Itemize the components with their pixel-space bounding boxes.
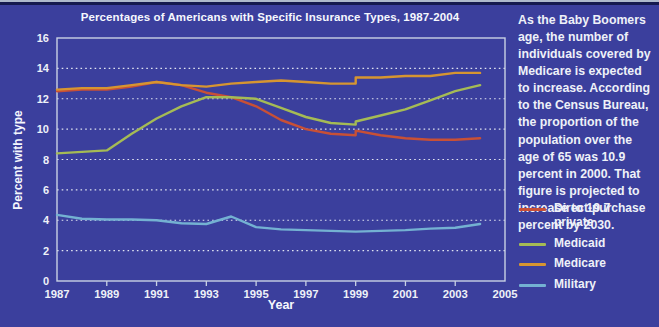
figure-panel: Percentages of Americans with Specific I…: [0, 0, 659, 327]
series-line-medicaid: [57, 85, 480, 153]
y-tick-label-10: 10: [37, 123, 49, 135]
legend-line-swatch: [519, 284, 546, 287]
y-tick-label-12: 12: [37, 93, 49, 105]
x-tick-label-2005: 2005: [492, 288, 517, 300]
y-tick-label-6: 6: [43, 184, 49, 196]
y-axis-title: Percent with type: [11, 80, 25, 240]
y-tick-label-14: 14: [37, 62, 50, 74]
x-axis-title: Year: [161, 298, 401, 312]
legend-label: Medicaid: [554, 237, 649, 251]
y-tick-label-4: 4: [43, 214, 50, 226]
series-line-direct-purchase-private: [57, 82, 480, 140]
y-tick-label-0: 0: [43, 275, 49, 287]
legend-item-medicare: Medicare: [519, 257, 649, 271]
legend-line-swatch: [519, 208, 546, 211]
legend-label: Military: [554, 278, 649, 292]
legend-item-direct-purchase: Direct-purchase private: [519, 202, 649, 230]
x-tick-label-1989: 1989: [94, 288, 119, 300]
chart-legend: Direct-purchase private Medicaid Medicar…: [519, 202, 649, 292]
y-tick-label-2: 2: [43, 245, 49, 257]
y-tick-label-16: 16: [37, 32, 49, 44]
legend-line-swatch: [519, 263, 546, 266]
legend-line-swatch: [519, 243, 546, 246]
legend-item-medicaid: Medicaid: [519, 237, 649, 251]
series-line-military: [57, 215, 480, 232]
legend-item-military: Military: [519, 278, 649, 292]
legend-label: Medicare: [554, 257, 649, 271]
x-tick-label-1987: 1987: [44, 288, 69, 300]
legend-label: Direct-purchase private: [554, 202, 649, 230]
x-tick-label-2003: 2003: [443, 288, 468, 300]
y-tick-label-8: 8: [43, 154, 49, 166]
series-line-medicare: [57, 73, 480, 90]
